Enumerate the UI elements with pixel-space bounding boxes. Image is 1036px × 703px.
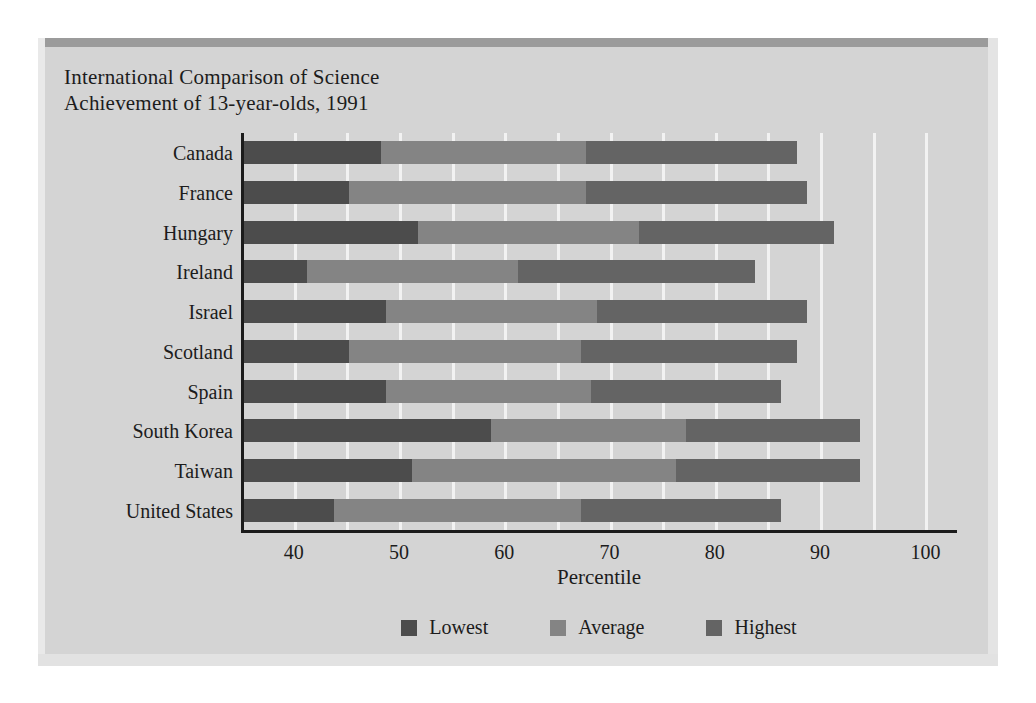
bar-segment-highest[interactable] [686,419,860,442]
legend-swatch-icon [706,620,722,636]
bar-segment-lowest[interactable] [244,419,491,442]
chart-title: International Comparison of Science Achi… [64,64,380,116]
bar-segment-average[interactable] [381,141,586,164]
bar-row[interactable] [244,260,755,283]
chart-figure: International Comparison of Science Achi… [0,0,1036,703]
x-tick-label: 80 [705,541,725,564]
bar-segment-lowest[interactable] [244,499,334,522]
legend-label: Average [578,616,644,639]
bar-row[interactable] [244,459,860,482]
plot-area: CanadaFranceHungaryIrelandIsraelScotland… [241,133,957,530]
category-label: United States [13,500,233,523]
plate-right-edge [988,38,998,666]
bar-segment-average[interactable] [386,380,591,403]
bar-segment-lowest[interactable] [244,459,412,482]
category-label: Canada [13,142,233,165]
bar-row[interactable] [244,221,834,244]
x-tick-label: 50 [389,541,409,564]
bar-segment-lowest[interactable] [244,221,418,244]
bar-segment-lowest[interactable] [244,181,349,204]
bar-row[interactable] [244,141,797,164]
bar-row[interactable] [244,419,860,442]
bar-segment-lowest[interactable] [244,141,381,164]
category-label: South Korea [13,420,233,443]
legend-item[interactable]: Lowest [401,616,488,639]
bar-segment-highest[interactable] [586,141,797,164]
bar-row[interactable] [244,181,807,204]
bar-segment-average[interactable] [418,221,639,244]
bar-row[interactable] [244,300,807,323]
bar-segment-average[interactable] [412,459,675,482]
x-tick-label: 40 [284,541,304,564]
x-tick-label: 100 [910,541,940,564]
category-labels: CanadaFranceHungaryIrelandIsraelScotland… [13,133,233,530]
x-tick-label: 60 [494,541,514,564]
bar-segment-highest[interactable] [581,340,797,363]
legend-swatch-icon [550,620,566,636]
bar-segment-highest[interactable] [518,260,755,283]
bar-row[interactable] [244,499,781,522]
category-label: Hungary [13,222,233,245]
bar-segment-average[interactable] [334,499,581,522]
x-tick-label: 90 [810,541,830,564]
x-axis-title: Percentile [241,565,957,590]
bar-segment-highest[interactable] [591,380,781,403]
x-tick-labels: 405060708090100 [241,533,957,563]
bar-segment-average[interactable] [491,419,686,442]
chart-plate: International Comparison of Science Achi… [38,38,998,666]
category-label: Taiwan [13,460,233,483]
bar-segment-lowest[interactable] [244,340,349,363]
gridline [873,133,876,530]
gridline [925,133,928,530]
bar-segment-average[interactable] [307,260,518,283]
bar-segment-average[interactable] [349,181,586,204]
bar-segment-lowest[interactable] [244,380,386,403]
category-label: Ireland [13,261,233,284]
plate-bottom-edge [38,654,998,666]
x-tick-label: 70 [600,541,620,564]
bar-row[interactable] [244,340,797,363]
bar-segment-highest[interactable] [581,499,781,522]
category-label: Israel [13,301,233,324]
bar-segment-average[interactable] [386,300,597,323]
legend-swatch-icon [401,620,417,636]
bar-segment-highest[interactable] [586,181,807,204]
bar-segment-highest[interactable] [676,459,860,482]
bar-segment-lowest[interactable] [244,260,307,283]
bar-segment-highest[interactable] [639,221,834,244]
plate-top-edge [38,38,998,47]
legend-item[interactable]: Highest [706,616,796,639]
bar-segment-lowest[interactable] [244,300,386,323]
bar-segment-highest[interactable] [597,300,808,323]
chart-legend: LowestAverageHighest [241,616,957,639]
category-label: France [13,182,233,205]
category-label: Scotland [13,341,233,364]
bar-segment-average[interactable] [349,340,581,363]
bar-row[interactable] [244,380,781,403]
category-label: Spain [13,381,233,404]
legend-label: Highest [734,616,796,639]
legend-item[interactable]: Average [550,616,644,639]
legend-label: Lowest [429,616,488,639]
